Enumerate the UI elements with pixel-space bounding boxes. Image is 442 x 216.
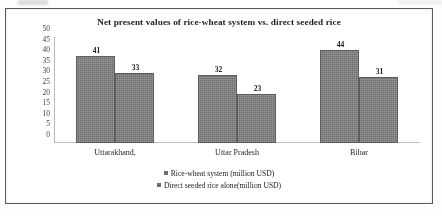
bar-value-label: 33 (116, 63, 155, 72)
chart-legend: Rice-wheat system (million USD)Direct se… (6, 167, 432, 191)
y-axis-tick-0: 0 (46, 130, 50, 139)
bar-value-label: 23 (238, 84, 277, 93)
bar: 23 (237, 94, 276, 143)
bar-value-label: 32 (199, 65, 238, 74)
legend-item: Direct seeded rice alone(million USD) (6, 179, 432, 191)
bar: 31 (359, 77, 398, 143)
legend-label: Rice-wheat system (million USD) (171, 169, 275, 178)
legend-item: Rice-wheat system (million USD) (6, 167, 432, 179)
bar-group: 4431 (320, 37, 398, 143)
y-axis-tick-30: 30 (43, 66, 50, 75)
legend-swatch-icon (164, 171, 168, 175)
scan-artifact-top (18, 0, 48, 5)
y-axis-tick-35: 35 (43, 55, 50, 64)
y-axis-tick-25: 25 (43, 77, 50, 86)
bar-value-label: 44 (321, 40, 360, 49)
bar-value-label: 41 (77, 46, 116, 55)
x-axis-category-labels: Uttarakhand,Uttar PradeshBihar (54, 148, 420, 162)
bar: 33 (115, 73, 154, 143)
y-axis-tick-15: 15 (43, 98, 50, 107)
plot-area: 50454035302520151050 413332234431 (54, 37, 420, 143)
chart-frame: Net present values of rice-wheat system … (5, 8, 433, 204)
chart-title: Net present values of rice-wheat system … (6, 17, 432, 27)
y-axis-line (54, 37, 55, 143)
bar: 41 (76, 56, 115, 143)
bar-group: 3223 (198, 37, 276, 143)
bar: 44 (320, 50, 359, 143)
y-axis-tick-10: 10 (43, 108, 50, 117)
scan-artifact-right (398, 1, 442, 4)
bar-group: 4133 (76, 37, 154, 143)
bar-value-label: 31 (360, 67, 399, 76)
legend-label: Direct seeded rice alone(million USD) (164, 181, 281, 190)
y-axis-tick-20: 20 (43, 87, 50, 96)
y-axis-tick-40: 40 (43, 45, 50, 54)
legend-swatch-icon (157, 183, 161, 187)
y-axis-tick-45: 45 (43, 34, 50, 43)
category-label: Uttar Pradesh (177, 148, 297, 157)
y-axis-tick-50: 50 (43, 24, 50, 33)
category-label: Bihar (299, 148, 419, 157)
y-axis-tick-5: 5 (46, 119, 50, 128)
category-label: Uttarakhand, (55, 148, 175, 157)
bar: 32 (198, 75, 237, 143)
